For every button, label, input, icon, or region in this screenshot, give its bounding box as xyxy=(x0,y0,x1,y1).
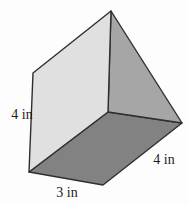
height-dimension-label: 4 in xyxy=(11,107,32,122)
triangular-prism-figure: 4 in 3 in 4 in xyxy=(0,0,189,205)
base-dimension-label: 3 in xyxy=(56,185,77,200)
prism-right-triangle-face xyxy=(108,11,182,123)
length-dimension-label: 4 in xyxy=(153,152,174,167)
figure-canvas: 4 in 3 in 4 in xyxy=(0,0,189,205)
